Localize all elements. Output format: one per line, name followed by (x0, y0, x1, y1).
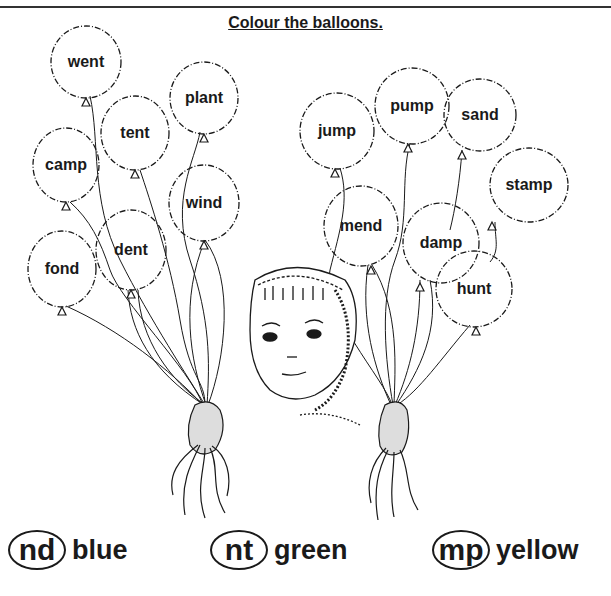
balloon-damp[interactable]: damp (420, 234, 463, 252)
right-hand (369, 402, 418, 520)
color-blue: blue (72, 535, 128, 566)
key-mp-yellow: mp yellow (432, 530, 579, 570)
balloon-went[interactable]: went (68, 53, 104, 71)
left-hand (172, 402, 229, 518)
balloon-sand[interactable]: sand (461, 106, 498, 124)
child-face (250, 268, 360, 426)
balloon-jump[interactable]: jump (318, 122, 356, 140)
balloon-wind[interactable]: wind (186, 194, 222, 212)
balloon-camp[interactable]: camp (45, 156, 87, 174)
balloon-hunt[interactable]: hunt (457, 280, 492, 298)
balloon-tent[interactable]: tent (120, 124, 149, 142)
ending-mp: mp (432, 530, 490, 570)
color-yellow: yellow (496, 535, 579, 566)
key-nt-green: nt green (210, 530, 348, 570)
key-nd-blue: nd blue (8, 530, 128, 570)
color-green: green (274, 535, 348, 566)
ending-nt: nt (210, 530, 268, 570)
balloon-dent[interactable]: dent (114, 241, 148, 259)
balloon-mend[interactable]: mend (340, 217, 383, 235)
balloon-stamp[interactable]: stamp (505, 176, 552, 194)
balloon-pump[interactable]: pump (390, 97, 434, 115)
ending-nd: nd (8, 530, 66, 570)
balloon-fond[interactable]: fond (45, 260, 80, 278)
right-strings (329, 143, 496, 405)
balloons-illustration (0, 0, 611, 596)
balloon-plant[interactable]: plant (185, 89, 223, 107)
